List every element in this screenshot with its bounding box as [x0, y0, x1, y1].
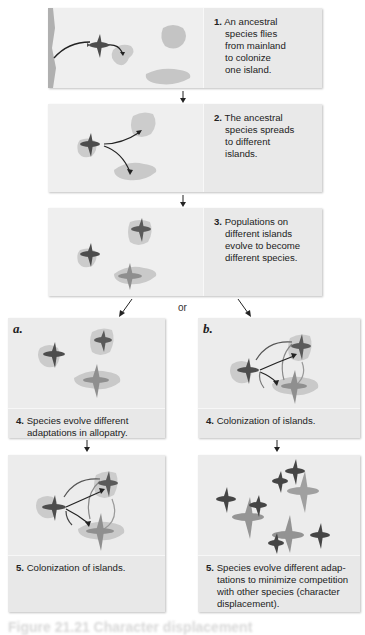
step-4a-panel: a. 4. Species evolve different adaptatio… [8, 318, 165, 438]
ancestral-bird-icon [87, 34, 109, 58]
flight-arrow-icon [54, 42, 90, 58]
step-1-illustration [48, 8, 203, 88]
or-label: or [178, 302, 187, 313]
dark-species-bird-icon [272, 471, 288, 493]
down-arrow-icon [273, 440, 281, 452]
divergence-illustration [48, 208, 203, 296]
step-1-text: 1. An ancestral species flies from mainl… [203, 8, 322, 88]
allopatric-adaptation-illustration [8, 318, 165, 408]
step-4a-caption: 4. Species evolve different adaptations … [8, 408, 165, 438]
step-4b-panel: b. 4. Colonization of islands. [198, 318, 360, 438]
step-5a-caption: 5. Colonization of islands. [8, 555, 165, 612]
branch-arrow-right-icon [236, 298, 252, 318]
step-2-text: 2. The ancestral species spreads to diff… [203, 104, 322, 192]
island-icon [114, 163, 156, 180]
dark-species-bird-icon [310, 523, 330, 549]
branch-arrow-left-icon [118, 298, 134, 318]
step-5b-caption: 5. Species evolve different adap- tation… [198, 555, 360, 612]
recolonization-illustration [8, 455, 165, 555]
spread-illustration [48, 104, 203, 192]
species-c-bird-icon [83, 364, 109, 398]
step-2-panel: 2. The ancestral species spreads to diff… [48, 104, 322, 192]
recolonization-illustration [198, 318, 360, 408]
mainland-icon [48, 8, 56, 88]
down-arrow-icon [179, 195, 187, 207]
step-3-panel: 3. Populations on different islands evol… [48, 208, 322, 296]
step-number: 1. [214, 16, 222, 27]
step-5b-panel: 5. Species evolve different adap- tation… [198, 455, 360, 612]
step-3-text: 3. Populations on different islands evol… [203, 208, 322, 296]
character-displacement-illustration [198, 455, 360, 555]
colonization-illustration [48, 8, 203, 88]
step-1-panel: 1. An ancestral species flies from mainl… [48, 8, 322, 88]
step-2-illustration [48, 104, 203, 192]
step-3-illustration [48, 208, 203, 296]
step-5a-panel: 5. Colonization of islands. [8, 455, 165, 612]
migration-arrow-icon [260, 356, 294, 370]
island-icon [161, 25, 186, 49]
island-icon [146, 69, 191, 85]
dark-species-bird-icon [216, 487, 236, 513]
island-icon [131, 112, 156, 137]
light-species-bird-icon [287, 471, 319, 513]
down-arrow-icon [83, 440, 91, 452]
figure-caption: Figure 21.21 Character displacement [8, 619, 252, 635]
step-4b-caption: 4. Colonization of islands. [198, 408, 360, 438]
down-arrow-icon [179, 91, 187, 103]
